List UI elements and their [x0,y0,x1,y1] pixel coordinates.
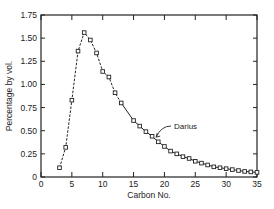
data-point-marker [82,31,86,35]
data-point-marker [89,38,93,42]
data-point-marker [255,171,259,175]
y-axis-title: Percentage by vol. [4,61,14,131]
x-tick-label: 5 [69,179,74,189]
data-point-marker [249,170,253,174]
y-tick-label: 0 [32,172,37,182]
data-point-marker [70,98,74,102]
y-tick-label: 1.75 [20,10,37,20]
data-point-marker [193,159,197,163]
y-tick-label: 1.25 [20,56,37,66]
y-axis: 00.250.500.751.001.251.501.75 [20,10,257,182]
series-line-dashed [60,33,122,168]
data-point-marker [144,130,148,134]
data-point-marker [113,91,117,95]
data-point-marker [200,161,204,165]
y-tick-label: 0.50 [20,126,37,136]
data-series [58,31,259,174]
data-point-marker [64,146,68,150]
data-point-marker [163,145,167,149]
data-point-marker [138,124,142,128]
x-tick-label: 25 [191,179,201,189]
annotation-label-darius: Darius [174,122,197,131]
annotation-arrow [156,126,171,137]
annotations: Darius [156,122,197,137]
data-point-marker [224,167,228,171]
plot-border [41,15,257,177]
data-point-marker [243,170,247,174]
data-point-marker [218,166,222,170]
x-tick-label: 15 [129,179,139,189]
x-tick-label: 0 [39,179,44,189]
data-point-marker [76,49,80,53]
x-tick-label: 35 [252,179,262,189]
data-point-marker [107,75,111,79]
data-point-marker [237,169,241,173]
y-tick-label: 1.50 [20,33,37,43]
data-point-marker [119,101,123,105]
series-line-solid [121,103,257,172]
data-point-marker [95,51,99,55]
y-tick-label: 1.00 [20,79,37,89]
data-point-marker [231,168,235,172]
plot-frame [41,15,257,177]
data-point-marker [175,152,179,156]
data-point-marker [156,140,160,144]
data-point-marker [181,155,185,159]
data-point-marker [150,134,154,138]
data-point-marker [212,165,216,169]
x-tick-label: 20 [160,179,170,189]
y-tick-label: 0.25 [20,149,37,159]
chart: 00.250.500.751.001.251.501.75 0510152025… [0,0,274,209]
data-point-marker [132,119,136,123]
data-point-marker [58,166,62,170]
data-point-marker [206,163,210,167]
x-tick-label: 10 [98,179,108,189]
y-tick-label: 0.75 [20,103,37,113]
x-tick-label: 30 [221,179,231,189]
data-point-marker [169,149,173,153]
data-point-marker [187,157,191,161]
data-point-marker [101,70,105,74]
x-axis-title: Carbon No. [127,190,170,200]
